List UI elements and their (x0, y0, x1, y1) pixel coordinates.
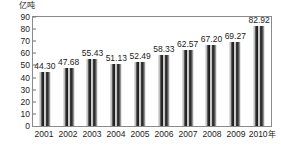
x-axis-unit-suffix: 年 (268, 130, 276, 139)
x-axis-tick-label: 2001 (35, 129, 54, 139)
bar (206, 45, 217, 126)
x-axis-year-text: 2010 (249, 129, 268, 139)
y-axis-tick-label: 90 (21, 13, 30, 22)
bar-value-label: 44.30 (34, 62, 55, 71)
x-axis-tick-label: 2008 (203, 129, 222, 139)
bar-value-label: 55.43 (82, 49, 103, 58)
x-axis-ticks: 2001200220032004200520062007200820092010… (32, 129, 272, 143)
bar (230, 42, 241, 126)
bar-slot: 44.30 (33, 17, 57, 126)
x-axis-tick-label: 2002 (59, 129, 78, 139)
bar (39, 72, 50, 126)
bar (254, 26, 265, 126)
bar-slot: 47.68 (57, 17, 81, 126)
plot-area: 0102030405060708090 44.3047.6855.4351.13… (32, 16, 272, 127)
y-axis-tick-label: 30 (21, 85, 30, 94)
bar-slot: 52.49 (128, 17, 152, 126)
bar-slot: 62.57 (176, 17, 200, 126)
bar (87, 59, 98, 126)
y-axis-tick-label: 0 (25, 122, 30, 131)
y-axis-tick-label: 40 (21, 73, 30, 82)
bar-value-label: 51.13 (106, 54, 127, 63)
bar-slot: 58.33 (152, 17, 176, 126)
bar-value-label: 62.57 (177, 40, 198, 49)
bar-slot: 82.92 (247, 17, 271, 126)
bars-layer: 44.3047.6855.4351.1352.4958.3362.5767.20… (33, 17, 271, 126)
y-axis-tick-label: 20 (21, 97, 30, 106)
x-axis-tick-label: 2004 (107, 129, 126, 139)
y-axis-tick-label: 60 (21, 49, 30, 58)
bar-slot: 67.20 (200, 17, 224, 126)
x-axis-tick-label: 2009 (227, 129, 246, 139)
x-axis-tick-label: 2006 (155, 129, 174, 139)
bar-slot: 51.13 (104, 17, 128, 126)
y-axis-tick-label: 10 (21, 109, 30, 118)
x-axis-tick-label: 2007 (179, 129, 198, 139)
bar-value-label: 47.68 (58, 58, 79, 67)
bar-value-label: 67.20 (201, 35, 222, 44)
bar (111, 64, 122, 126)
y-axis-tick-label: 80 (21, 25, 30, 34)
x-axis-tick-label: 2010年 (249, 129, 276, 140)
bar (63, 68, 74, 126)
bar (135, 62, 146, 126)
bar-slot: 69.27 (223, 17, 247, 126)
y-axis-unit-label: 亿吨 (19, 1, 35, 10)
bar-value-label: 52.49 (129, 52, 150, 61)
bar-value-label: 82.92 (248, 16, 269, 25)
y-axis-tick-label: 70 (21, 37, 30, 46)
x-axis-tick-label: 2003 (83, 129, 102, 139)
bar-value-label: 69.27 (225, 32, 246, 41)
bar (158, 55, 169, 126)
bar-chart: 亿吨 0102030405060708090 44.3047.6855.4351… (0, 0, 281, 166)
bar-slot: 55.43 (81, 17, 105, 126)
y-axis-tick-label: 50 (21, 61, 30, 70)
x-axis-tick-label: 2005 (131, 129, 150, 139)
bar (182, 50, 193, 126)
bar-value-label: 58.33 (153, 45, 174, 54)
